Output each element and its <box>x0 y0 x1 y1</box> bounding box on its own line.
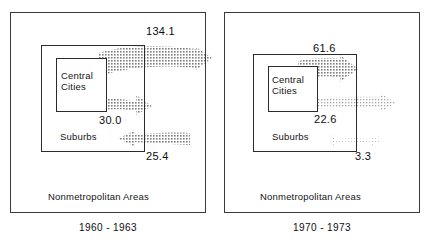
central-cities-label-line1: Central <box>61 70 93 81</box>
central-cities-label-line1-right: Central <box>272 74 304 85</box>
flow-value-134-1: 134.1 <box>146 25 175 37</box>
flow-value-22-6: 22.6 <box>314 113 337 125</box>
flow-value-61-6: 61.6 <box>313 42 336 54</box>
nonmetropolitan-label-right: Nonmetropolitan Areas <box>260 191 361 202</box>
central-cities-label-line2: Cities <box>61 81 86 92</box>
flow-value-25-4: 25.4 <box>146 150 169 162</box>
flow-value-30-0: 30.0 <box>99 114 122 126</box>
flow-value-3-3: 3.3 <box>355 150 371 162</box>
suburbs-label-right: Suburbs <box>272 131 309 142</box>
suburbs-label-left: Suburbs <box>60 131 97 142</box>
central-cities-label-left: Central Cities <box>61 70 93 92</box>
central-cities-label-line2-right: Cities <box>272 85 297 96</box>
panel-1960-1963: Central Cities Suburbs Nonmetropolitan A… <box>10 12 206 213</box>
caption-1970-1973: 1970 - 1973 <box>224 222 420 233</box>
nonmetropolitan-label-left: Nonmetropolitan Areas <box>48 191 149 202</box>
central-cities-label-right: Central Cities <box>272 74 304 96</box>
caption-1960-1963: 1960 - 1963 <box>10 222 206 233</box>
migration-flow-figure: Central Cities Suburbs Nonmetropolitan A… <box>0 0 430 244</box>
